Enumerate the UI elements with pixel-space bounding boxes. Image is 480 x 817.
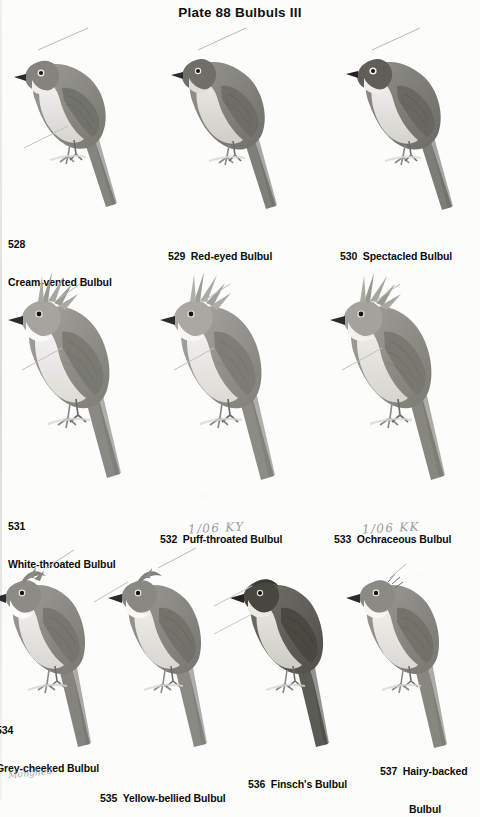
caption-536-name: 536 Finsch's Bulbul — [248, 778, 347, 791]
bird-illustration-529 — [172, 36, 302, 211]
handwritten-note-ochraceous: 1/06 KK — [362, 519, 420, 536]
bird-illustration-530 — [348, 36, 478, 211]
bird-illustration-531 — [8, 262, 148, 492]
bird-illustration-532 — [160, 262, 300, 492]
plate-title: Plate 88 Bulbuls III — [0, 5, 480, 20]
caption-533-name: 533 Ochraceous Bulbul — [334, 533, 451, 546]
caption-528-number: 528 — [8, 238, 112, 251]
caption-537-line1: 537 Hairy-backed — [380, 765, 468, 778]
bird-illustration-535 — [110, 548, 230, 748]
caption-535: 535 Yellow-bellied Bulbul — [100, 767, 226, 817]
caption-534: 534 Grey-cheeked Bulbul — [0, 699, 99, 800]
bird-illustration-536 — [232, 548, 352, 748]
caption-530-name: 530 Spectacled Bulbul — [340, 250, 452, 263]
caption-532-name: 532 Puff-throated Bulbul — [160, 533, 282, 546]
caption-535-name: 535 Yellow-bellied Bulbul — [100, 792, 226, 805]
caption-537-line2: Bulbul — [409, 803, 468, 816]
caption-537: 537 Hairy-backed Bulbul — [380, 740, 468, 817]
bird-illustration-533 — [330, 262, 470, 492]
caption-536: 536 Finsch's Bulbul — [248, 753, 347, 816]
caption-534-number: 534 — [0, 724, 99, 737]
bird-illustration-537 — [348, 548, 468, 748]
bird-illustration-528 — [14, 36, 144, 211]
handwritten-note-puff-throated: 1/06 KY — [188, 520, 245, 537]
caption-531-number: 531 — [8, 520, 116, 533]
caption-529-name: 529 Red-eyed Bulbul — [168, 250, 272, 263]
